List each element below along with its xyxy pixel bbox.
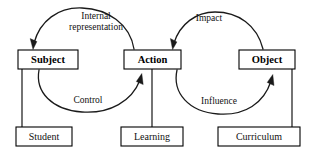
edge-label-impact: Impact [196,13,223,23]
edge-internal-representation: Internal representation [30,8,134,50]
edge-impact: Impact [170,12,263,50]
arc-control [38,70,140,112]
activity-system-diagram: Internal representation Impact Control I… [0,0,315,152]
arrowhead-impact [170,39,177,50]
arrowhead-influence [267,75,274,86]
edge-influence: Influence [176,70,274,114]
node-student-label: Student [29,131,60,142]
node-curriculum[interactable]: Curriculum [218,127,300,146]
node-curriculum-label: Curriculum [236,131,282,142]
diagram-canvas: Internal representation Impact Control I… [0,0,315,152]
node-subject-label: Subject [31,54,65,65]
node-action-label: Action [138,54,168,65]
node-action[interactable]: Action [124,50,181,69]
arrowhead-internal-representation [30,39,37,50]
edge-label-internal-representation-line2: representation [69,22,123,32]
arc-influence [176,70,271,114]
edge-label-influence: Influence [201,96,237,106]
edge-label-internal-representation-line1: Internal [81,11,111,21]
edge-label-control: Control [73,95,102,105]
node-learning[interactable]: Learning [121,127,183,146]
node-subject[interactable]: Subject [18,50,78,69]
node-learning-label: Learning [134,131,170,142]
arrowhead-control [136,74,143,85]
node-student[interactable]: Student [16,127,72,146]
node-object-label: Object [252,54,283,65]
edge-control: Control [38,70,143,112]
node-object[interactable]: Object [239,50,295,69]
